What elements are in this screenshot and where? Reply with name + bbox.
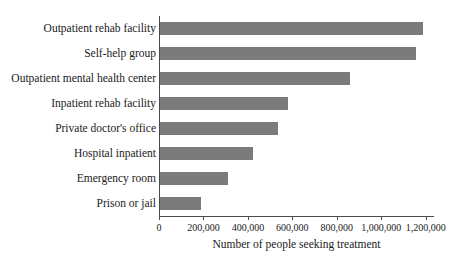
y-tick-label: Outpatient mental health center [4, 72, 156, 85]
y-tick-label: Self-help group [4, 47, 156, 60]
x-axis-line [159, 216, 434, 217]
bar [160, 97, 288, 110]
bar-row [160, 66, 350, 91]
x-tick-mark [203, 216, 204, 220]
bar-row [160, 191, 201, 216]
bar-row [160, 141, 253, 166]
y-tick-label: Inpatient rehab facility [4, 97, 156, 110]
y-tick-label: Prison or jail [4, 197, 156, 210]
x-tick-label: 400,000 [232, 222, 265, 234]
x-axis-title: Number of people seeking treatment [159, 237, 434, 251]
x-tick-mark [337, 216, 338, 220]
x-tick-mark [292, 216, 293, 220]
bar-row [160, 166, 228, 191]
bar [160, 197, 201, 210]
x-tick-label: 800,000 [321, 222, 354, 234]
bar [160, 22, 423, 35]
y-tick-label: Emergency room [4, 172, 156, 185]
bar [160, 147, 253, 160]
y-axis-labels: Outpatient rehab facility Self-help grou… [0, 16, 156, 216]
x-tick-label: 600,000 [276, 222, 309, 234]
bar-row [160, 116, 278, 141]
x-tick-mark [426, 216, 427, 220]
plot-area [160, 16, 434, 216]
bar-row [160, 41, 416, 66]
bar-row [160, 16, 423, 41]
bar-chart: Outpatient rehab facility Self-help grou… [0, 0, 467, 260]
y-tick-label: Outpatient rehab facility [4, 22, 156, 35]
bar [160, 122, 278, 135]
bar [160, 47, 416, 60]
bar [160, 72, 350, 85]
y-tick-label: Hospital inpatient [4, 147, 156, 160]
x-tick-label: 1,200,000 [406, 222, 446, 234]
x-tick-mark [248, 216, 249, 220]
x-tick-mark [159, 216, 160, 220]
bar-row [160, 91, 288, 116]
x-tick-mark [381, 216, 382, 220]
x-tick-label: 0 [157, 222, 162, 234]
x-tick-label: 1,000,000 [361, 222, 401, 234]
bar [160, 172, 228, 185]
x-tick-label: 200,000 [187, 222, 220, 234]
y-tick-label: Private doctor's office [4, 122, 156, 135]
